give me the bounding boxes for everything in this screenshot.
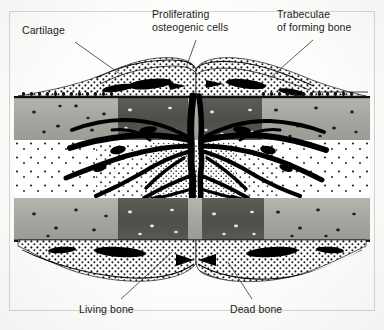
label-cartilage: Cartilage: [22, 24, 65, 37]
cartilage-cap-bottom-right: [196, 240, 366, 284]
histology-artwork: [0, 0, 384, 330]
cartilage-cap-top-left: [18, 58, 196, 96]
label-trabeculae-of-forming-bone: Trabeculae of forming bone: [277, 8, 351, 33]
leader-cartilage: [75, 42, 120, 74]
label-proliferating-osteogenic-cells: Proliferating osteogenic cells: [152, 8, 228, 33]
cortical-shaft-lower: [14, 198, 370, 242]
dead-bone-lower-right: [202, 198, 264, 242]
cartilage-cap-bottom-left: [18, 240, 196, 283]
cartilage-cap-top-right: [196, 58, 368, 98]
label-dead-bone: Dead bone: [230, 303, 282, 316]
dead-bone-lower-left: [118, 198, 188, 242]
fracture-healing-figure: Cartilage Proliferating osteogenic cells…: [0, 0, 384, 330]
label-living-bone: Living bone: [79, 303, 134, 316]
